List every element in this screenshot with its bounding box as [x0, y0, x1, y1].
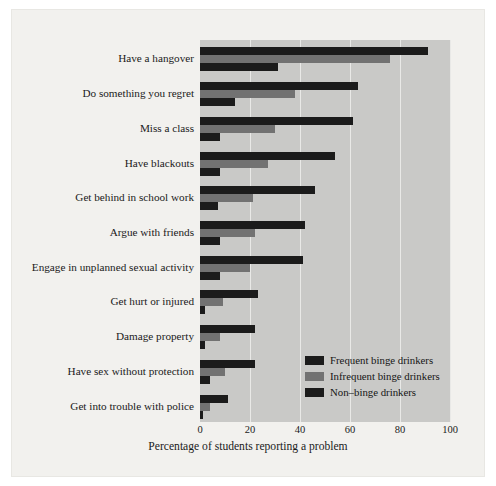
bar: [200, 152, 335, 160]
category-label: Engage in unplanned sexual activity: [0, 261, 194, 273]
bar-group: [200, 186, 450, 210]
bar: [200, 229, 255, 237]
bar: [200, 256, 303, 264]
bar: [200, 98, 235, 106]
category-label: Argue with friends: [0, 226, 194, 238]
bar-group: [200, 82, 450, 106]
bar: [200, 411, 203, 419]
bar: [200, 395, 228, 403]
x-tick-label: 20: [230, 424, 270, 435]
bar: [200, 221, 305, 229]
legend-swatch-frequent: [305, 356, 324, 365]
legend-label-frequent: Frequent binge drinkers: [330, 354, 433, 366]
x-tick-label: 100: [430, 424, 470, 435]
x-tick-label: 40: [280, 424, 320, 435]
bar: [200, 55, 390, 63]
bar: [200, 186, 315, 194]
category-label: Miss a class: [0, 122, 194, 134]
category-label: Get hurt or injured: [0, 295, 194, 307]
bar: [200, 237, 220, 245]
legend: Frequent binge drinkers Infrequent binge…: [305, 352, 465, 400]
legend-swatch-infrequent: [305, 372, 324, 381]
bar-group: [200, 325, 450, 349]
bar: [200, 133, 220, 141]
bar: [200, 90, 295, 98]
bar: [200, 376, 210, 384]
x-tick-label: 80: [380, 424, 420, 435]
bar: [200, 117, 353, 125]
category-label: Have a hangover: [0, 52, 194, 64]
bar: [200, 160, 268, 168]
bar-group: [200, 256, 450, 280]
bar: [200, 341, 205, 349]
bar: [200, 306, 205, 314]
bar-group: [200, 117, 450, 141]
category-label: Have sex without protection: [0, 365, 194, 377]
legend-item-infrequent: Infrequent binge drinkers: [305, 368, 465, 384]
category-label: Get behind in school work: [0, 191, 194, 203]
bar: [200, 63, 278, 71]
category-label: Have blackouts: [0, 157, 194, 169]
bar: [200, 82, 358, 90]
bar: [200, 194, 253, 202]
bar: [200, 125, 275, 133]
category-label: Get into trouble with police: [0, 400, 194, 412]
bar: [200, 202, 218, 210]
bar: [200, 333, 220, 341]
bar: [200, 168, 220, 176]
bar: [200, 272, 220, 280]
x-axis-title: Percentage of students reporting a probl…: [0, 440, 496, 453]
bar: [200, 360, 255, 368]
bar-group: [200, 47, 450, 71]
legend-swatch-nonbinge: [305, 388, 324, 397]
x-tick-label: 60: [330, 424, 370, 435]
bar: [200, 325, 255, 333]
chart-figure: Have a hangoverDo something you regretMi…: [0, 0, 496, 486]
bar-group: [200, 290, 450, 314]
bar: [200, 298, 223, 306]
bar: [200, 264, 250, 272]
category-label: Damage property: [0, 330, 194, 342]
bar: [200, 47, 428, 55]
x-tick-label: 0: [180, 424, 220, 435]
legend-label-infrequent: Infrequent binge drinkers: [330, 370, 440, 382]
bar-group: [200, 221, 450, 245]
bar: [200, 403, 210, 411]
bar: [200, 290, 258, 298]
bar: [200, 368, 225, 376]
legend-item-frequent: Frequent binge drinkers: [305, 352, 465, 368]
legend-item-nonbinge: Non–binge drinkers: [305, 384, 465, 400]
bar-group: [200, 152, 450, 176]
category-label: Do something you regret: [0, 87, 194, 99]
legend-label-nonbinge: Non–binge drinkers: [330, 386, 416, 398]
